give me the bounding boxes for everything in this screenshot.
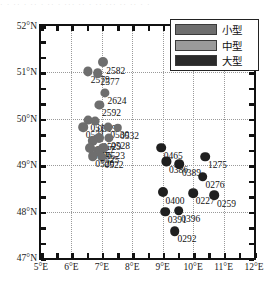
legend-swatch-medium [175,40,217,51]
axis-tick-mark [87,26,90,31]
legend-swatch-small [175,24,217,35]
axis-tick-mark [41,134,46,137]
gridline-horizontal [41,212,254,213]
axis-tick-mark [41,57,46,60]
legend-swatch-large [175,55,217,66]
axis-tick-mark [117,253,120,258]
data-point-label: 2624 [107,96,126,106]
axis-tick-mark [249,88,254,91]
axis-tick-mark [41,72,46,75]
axis-tick-mark [163,253,166,258]
gridline-vertical [71,26,72,258]
gridline-horizontal [41,72,254,73]
axis-tick-mark [41,243,46,246]
axis-tick-mark [249,119,254,122]
data-point-label: 1275 [208,160,227,170]
axis-tick-mark [41,258,46,261]
legend: 小型 中型 大型 [170,19,259,71]
axis-tick-mark [117,26,120,31]
x-tick-label: 10°E [184,262,203,272]
axis-tick-mark [41,150,46,153]
axis-tick-mark [41,88,46,91]
axis-tick-mark [193,253,196,258]
data-point-label: 0259 [217,199,236,209]
gridline-horizontal [41,119,254,120]
data-point-label: 0276 [206,180,225,190]
x-tick-label: 9°E [156,262,170,272]
axis-tick-mark [41,196,46,199]
axis-tick-mark [41,41,46,44]
axis-tick-mark [249,103,254,106]
axis-tick-mark [249,150,254,153]
axis-tick-mark [249,196,254,199]
axis-tick-mark [41,227,46,230]
axis-tick-mark [87,253,90,258]
axis-tick-mark [249,258,254,261]
legend-label-medium: 中型 [222,38,242,53]
axis-tick-mark [148,253,151,258]
axis-tick-mark [249,212,254,215]
data-point-label: 2577 [101,77,120,87]
axis-tick-mark [56,253,59,258]
y-tick-label: 47°N [17,253,37,263]
axis-tick-mark [41,165,46,168]
axis-tick-mark [41,212,46,215]
y-tick-label: 50°N [17,114,37,124]
x-tick-label: 7°E [95,262,109,272]
x-tick-label: 8°E [125,262,139,272]
y-tick-label: 51°N [17,67,37,77]
y-tick-label: 48°N [17,207,37,217]
axis-tick-mark [208,253,211,258]
data-point-label: 0396 [181,214,200,224]
axis-tick-mark [41,103,46,106]
x-tick-label: 5°E [34,262,48,272]
axis-tick-mark [71,26,74,31]
gridline-vertical [132,26,133,258]
axis-tick-mark [249,134,254,137]
axis-tick-mark [249,243,254,246]
figure-root: · · ·· · ·· · ·· · ··· ·· · ·· ··· ·· ··… [0,0,275,288]
axis-tick-mark [132,253,135,258]
axis-tick-mark [56,26,59,31]
x-tick-label: 11°E [214,262,233,272]
data-point-label: 0400 [165,196,184,206]
axis-tick-mark [148,26,151,31]
axis-tick-mark [178,253,181,258]
axis-tick-mark [239,253,242,258]
axis-tick-mark [102,253,105,258]
y-tick-label: 52°N [17,21,37,31]
axis-tick-mark [249,72,254,75]
x-tick-label: 6°E [64,262,78,272]
axis-tick-mark [249,227,254,230]
axis-tick-mark [224,253,227,258]
legend-item: 小型 [175,23,254,36]
legend-item: 中型 [175,39,254,52]
data-point-label: 2592 [102,108,121,118]
axis-tick-mark [102,26,105,31]
axis-tick-mark [71,253,74,258]
axis-tick-mark [254,253,257,258]
legend-label-small: 小型 [222,22,242,37]
legend-label-large: 大型 [222,53,242,68]
data-point-label: 0532 [120,131,139,141]
data-point-label: 0520 [95,159,114,169]
axis-tick-mark [41,181,46,184]
axis-tick-mark [163,26,166,31]
x-tick-label: 12°E [244,262,263,272]
page-text-fragment: · · ·· · ·· · ·· · ··· ·· · ·· ··· ·· ··… [0,0,275,12]
axis-tick-mark [41,26,46,29]
axis-tick-mark [249,165,254,168]
y-tick-label: 49°N [17,160,37,170]
axis-tick-mark [41,119,46,122]
data-point-label: 0292 [178,234,197,244]
legend-item: 大型 [175,54,254,67]
axis-tick-mark [132,26,135,31]
axis-tick-mark [249,181,254,184]
